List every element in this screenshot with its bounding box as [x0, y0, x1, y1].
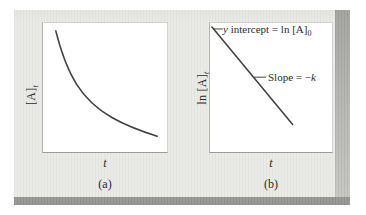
x-axis-label-b: t	[209, 156, 333, 170]
slope-text: Slope = −	[268, 71, 311, 83]
y-axis-label-a-main: [A]	[24, 87, 38, 105]
decay-curve-svg	[43, 23, 167, 152]
decay-curve	[56, 31, 157, 136]
panel-caption-b: (b)	[209, 177, 333, 191]
y-intercept-subscript: 0	[307, 29, 311, 38]
y-axis-label-b-main: ln [A]	[195, 74, 209, 105]
slope-var: k	[311, 71, 316, 83]
right-gradient-band	[335, 10, 350, 197]
y-axis-label-a: [A]t	[24, 81, 38, 109]
bottom-gray-bar	[14, 197, 350, 205]
plot-area-a	[42, 22, 168, 153]
y-intercept-text: intercept = ln [A]	[228, 23, 308, 35]
figure-page: y intercept = ln [A]0 Slope = −k [A]t ln…	[0, 0, 366, 215]
slope-annotation: Slope = −k	[268, 71, 316, 84]
plot-area-b: y intercept = ln [A]0 Slope = −k	[209, 22, 333, 153]
x-axis-label-a: t	[42, 156, 168, 170]
y-intercept-annotation: y intercept = ln [A]0	[223, 23, 311, 36]
y-axis-label-b-subscript: t	[202, 71, 211, 74]
y-axis-label-b: ln [A]t	[195, 68, 209, 108]
panel-caption-a: (a)	[42, 177, 168, 191]
straight-line-svg	[210, 23, 332, 152]
figure-panel-background: y intercept = ln [A]0 Slope = −k [A]t ln…	[14, 10, 350, 204]
y-axis-label-a-subscript: t	[31, 85, 40, 88]
